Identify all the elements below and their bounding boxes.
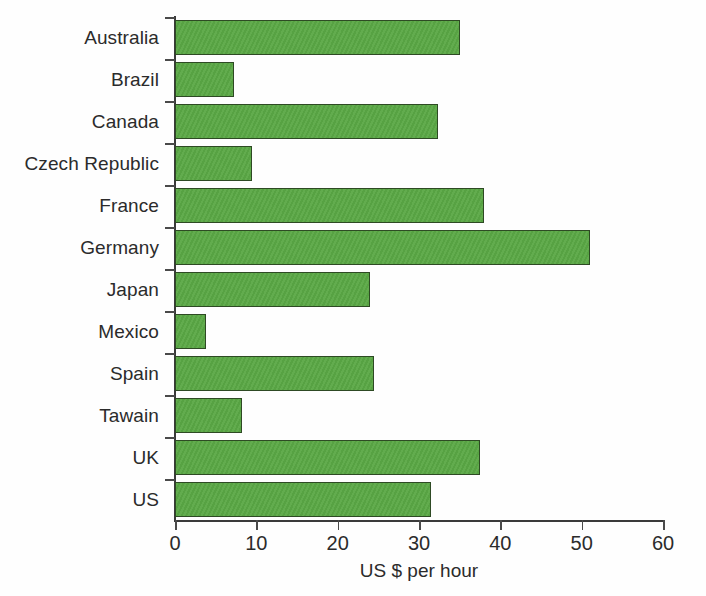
bar-spain <box>175 356 374 391</box>
bar-uk <box>175 440 480 475</box>
bar-germany <box>175 230 590 265</box>
y-axis-tick <box>165 353 175 355</box>
bar-brazil <box>175 62 234 97</box>
bar-japan <box>175 272 370 307</box>
x-axis-tick <box>256 520 258 530</box>
bar-france <box>175 188 484 223</box>
bar-band <box>175 395 663 437</box>
y-label-australia: Australia <box>0 17 168 59</box>
x-axis-tick <box>419 520 421 530</box>
y-axis-tick <box>165 395 175 397</box>
x-axis-tick <box>500 520 502 530</box>
y-axis-tick <box>165 17 175 19</box>
y-label-japan: Japan <box>0 269 168 311</box>
x-axis-tick <box>175 520 177 530</box>
y-label-czech-republic: Czech Republic <box>0 143 168 185</box>
bar-tawain <box>175 398 242 433</box>
y-label-france: France <box>0 185 168 227</box>
bar-us <box>175 482 431 517</box>
y-axis-tick <box>165 311 175 313</box>
bar-mexico <box>175 314 206 349</box>
y-label-mexico: Mexico <box>0 311 168 353</box>
bar-band <box>175 101 663 143</box>
bar-band <box>175 269 663 311</box>
x-axis-tick <box>338 520 340 530</box>
y-axis-tick <box>165 101 175 103</box>
x-axis-tick-label: 30 <box>394 532 444 555</box>
y-axis-tick <box>165 185 175 187</box>
x-axis-tick-label: 50 <box>557 532 607 555</box>
bar-chart: Australia Brazil Canada Czech Republic F… <box>0 0 706 596</box>
bar-band <box>175 227 663 269</box>
x-axis-tick-label: 20 <box>313 532 363 555</box>
x-axis-tick-label: 0 <box>150 532 200 555</box>
y-axis-tick <box>165 437 175 439</box>
x-axis-title: US $ per hour <box>175 560 663 582</box>
bar-band <box>175 185 663 227</box>
y-axis-tick <box>165 227 175 229</box>
y-label-canada: Canada <box>0 101 168 143</box>
y-label-spain: Spain <box>0 353 168 395</box>
bar-band <box>175 311 663 353</box>
bar-band <box>175 353 663 395</box>
y-axis-tick <box>165 143 175 145</box>
y-label-uk: UK <box>0 437 168 479</box>
y-label-us: US <box>0 479 168 521</box>
x-axis-tick-label: 60 <box>638 532 688 555</box>
bar-band <box>175 17 663 59</box>
y-label-brazil: Brazil <box>0 59 168 101</box>
bar-band <box>175 143 663 185</box>
y-axis-category-labels: Australia Brazil Canada Czech Republic F… <box>0 17 168 521</box>
bar-band <box>175 479 663 521</box>
y-axis-tick <box>165 59 175 61</box>
bar-czech-republic <box>175 146 252 181</box>
bar-band <box>175 59 663 101</box>
bar-australia <box>175 20 460 55</box>
y-label-tawain: Tawain <box>0 395 168 437</box>
y-axis-tick <box>165 269 175 271</box>
bar-canada <box>175 104 438 139</box>
x-axis-tick-label: 40 <box>475 532 525 555</box>
y-axis-tick <box>165 479 175 481</box>
y-label-germany: Germany <box>0 227 168 269</box>
x-axis-tick <box>663 520 665 530</box>
plot-area <box>175 17 663 521</box>
x-axis-tick-label: 10 <box>231 532 281 555</box>
x-axis-tick <box>582 520 584 530</box>
bar-band <box>175 437 663 479</box>
